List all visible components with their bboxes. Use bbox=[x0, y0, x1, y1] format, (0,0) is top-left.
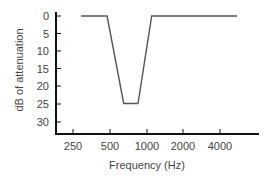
x-tick-4000: 4000 bbox=[208, 140, 232, 152]
y-tick-10: 10 bbox=[37, 45, 49, 57]
x-tick-labels: 250 500 1000 2000 4000 bbox=[64, 140, 232, 152]
y-tick-0: 0 bbox=[43, 10, 49, 22]
y-tick-20: 20 bbox=[37, 80, 49, 92]
y-axis-label: dB of attenuation bbox=[13, 28, 25, 111]
x-tick-1000: 1000 bbox=[135, 140, 159, 152]
attenuation-curve bbox=[81, 16, 237, 104]
y-tick-25: 25 bbox=[37, 98, 49, 110]
x-tick-250: 250 bbox=[64, 140, 82, 152]
x-tick-500: 500 bbox=[101, 140, 119, 152]
y-tick-labels: 0 5 10 15 20 25 30 bbox=[37, 10, 49, 128]
y-tick-30: 30 bbox=[37, 116, 49, 128]
y-tick-15: 15 bbox=[37, 63, 49, 75]
x-axis-label: Frequency (Hz) bbox=[109, 159, 185, 171]
x-tick-2000: 2000 bbox=[171, 140, 195, 152]
notch-filter-chart: 0 5 10 15 20 25 30 250 500 1000 2000 400… bbox=[0, 0, 276, 178]
y-tick-5: 5 bbox=[43, 28, 49, 40]
